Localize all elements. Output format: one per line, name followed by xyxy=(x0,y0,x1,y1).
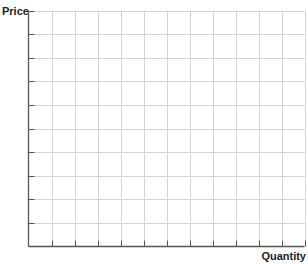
axes xyxy=(29,11,305,247)
chart-plot-area xyxy=(0,0,308,264)
grid-lines xyxy=(29,11,306,247)
